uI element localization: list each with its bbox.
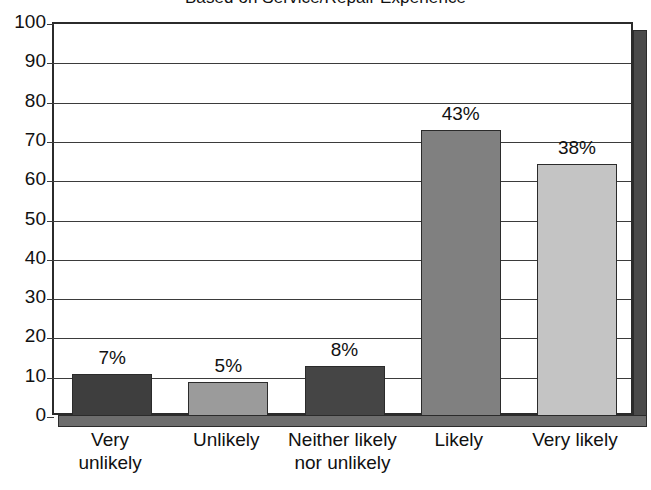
bar-chart: Based on Service/Repair Experience 10090…: [0, 0, 651, 490]
x-axis-category-label: Likely: [393, 428, 525, 451]
x-axis-labels: VeryunlikelyUnlikelyNeither likelynor un…: [52, 428, 647, 488]
bar-value-label: 38%: [517, 138, 637, 157]
x-axis-label-line: Very likely: [509, 428, 641, 451]
bar: [421, 130, 501, 417]
y-axis-tick-label: 50: [0, 209, 46, 228]
y-axis-labels: 1009080706050403020100: [0, 22, 46, 415]
bar: [188, 382, 268, 417]
bar-value-label: 43%: [401, 104, 521, 123]
y-axis-tick-label: 40: [0, 248, 46, 267]
y-axis-tick-label: 20: [0, 326, 46, 345]
bar-value-label: 5%: [168, 356, 288, 375]
y-axis-tick-label: 70: [0, 130, 46, 149]
y-axis-tick: [47, 103, 54, 104]
bar-value-label: 7%: [52, 348, 172, 367]
x-axis-category-label: Veryunlikely: [44, 428, 176, 474]
x-axis-label-line: Very: [44, 428, 176, 451]
y-axis-tick: [47, 260, 54, 261]
plot-wrapper: 7%5%8%43%38%: [52, 22, 637, 415]
y-axis-tick: [47, 417, 54, 418]
x-axis-label-line: Unlikely: [160, 428, 292, 451]
y-axis-tick: [47, 221, 54, 222]
chart-side-wall: [633, 30, 647, 423]
plot-area: 7%5%8%43%38%: [52, 22, 633, 415]
y-axis-tick-label: 0: [0, 405, 46, 424]
y-axis-tick: [47, 142, 54, 143]
y-axis-tick: [47, 299, 54, 300]
x-axis-label-line: Neither likely: [276, 428, 408, 451]
y-axis-tick: [47, 378, 54, 379]
x-axis-category-label: Unlikely: [160, 428, 292, 451]
y-axis-tick-label: 90: [0, 51, 46, 70]
y-axis-tick-label: 60: [0, 169, 46, 188]
bar: [305, 366, 385, 417]
chart-floor: [58, 415, 647, 427]
y-axis-tick: [47, 24, 54, 25]
x-axis-label-line: Likely: [393, 428, 525, 451]
bar: [72, 374, 152, 417]
x-axis-label-line: nor unlikely: [276, 451, 408, 474]
y-axis-tick: [47, 63, 54, 64]
bars-layer: 7%5%8%43%38%: [54, 24, 635, 417]
y-axis-tick-label: 30: [0, 287, 46, 306]
y-axis-tick: [47, 338, 54, 339]
x-axis-label-line: unlikely: [44, 451, 176, 474]
y-axis-tick: [47, 181, 54, 182]
y-axis-tick-label: 10: [0, 366, 46, 385]
x-axis-category-label: Neither likelynor unlikely: [276, 428, 408, 474]
x-axis-category-label: Very likely: [509, 428, 641, 451]
bar: [537, 164, 617, 417]
y-axis-tick-label: 100: [0, 12, 46, 31]
y-axis-tick-label: 80: [0, 91, 46, 110]
chart-title: Based on Service/Repair Experience: [0, 0, 651, 8]
bar-value-label: 8%: [285, 340, 405, 359]
